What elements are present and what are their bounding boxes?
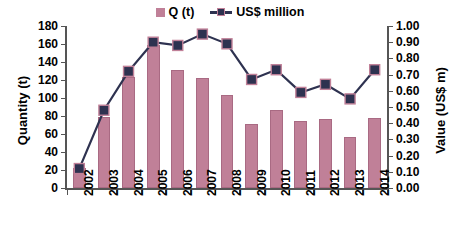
line-marker (124, 66, 134, 76)
x-axis-label: 2005 (156, 169, 170, 196)
y-tick-label-right: 0.20 (396, 149, 419, 163)
legend-marker-square (217, 8, 225, 16)
y-tick-label-right: 0.50 (396, 100, 419, 114)
line-marker (247, 74, 257, 84)
x-axis-label: 2014 (378, 169, 392, 196)
y-tick-label-left: 20 (45, 163, 58, 177)
y-tick-right (387, 26, 393, 27)
y-tick-right (387, 107, 393, 108)
y-tick-right (387, 123, 393, 124)
chart-container: Q (t) US$ million Quantity (t) Value (US… (0, 0, 460, 237)
line-marker (148, 37, 158, 47)
x-axis-label: 2002 (82, 169, 96, 196)
y-tick-label-left: 120 (38, 73, 58, 87)
line-marker (222, 39, 232, 49)
y-tick-label-left: 80 (45, 109, 58, 123)
y-tick-label-left: 180 (38, 19, 58, 33)
legend-entry-value: US$ million (210, 5, 304, 19)
x-axis-label: 2011 (304, 170, 318, 196)
line-marker-icon (210, 7, 232, 17)
x-axis-label: 2010 (279, 169, 293, 196)
line-path (79, 34, 374, 168)
line-marker (99, 105, 109, 115)
y-tick-label-left: 100 (38, 91, 58, 105)
line-marker (296, 87, 306, 97)
y-tick-label-left: 140 (38, 55, 58, 69)
y-tick-label-left: 160 (38, 37, 58, 51)
y-tick-label-right: 0.90 (396, 35, 419, 49)
legend-label-quantity: Q (t) (169, 5, 195, 19)
line-marker (271, 65, 281, 75)
x-axis-label: 2003 (107, 169, 121, 196)
line-marker (370, 65, 380, 75)
x-axis-label: 2007 (205, 169, 219, 196)
y-tick-label-left: 40 (45, 145, 58, 159)
y-tick-label-right: 0.60 (396, 84, 419, 98)
x-axis-label: 2013 (353, 169, 367, 196)
bar-swatch-icon (156, 8, 165, 17)
y-tick-right (387, 156, 393, 157)
y-tick-label-right: 0.30 (396, 132, 419, 146)
y-tick-label-right: 1.00 (396, 19, 419, 33)
legend-label-value: US$ million (236, 5, 304, 19)
line-series (67, 26, 387, 188)
x-axis-label: 2009 (255, 169, 269, 196)
x-axis-label: 2008 (230, 169, 244, 196)
line-marker (320, 79, 330, 89)
line-marker (345, 94, 355, 104)
x-axis-label: 2012 (328, 169, 342, 196)
y-tick-right (387, 139, 393, 140)
y-axis-left-title: Quantity (t) (15, 56, 30, 166)
line-marker (173, 40, 183, 50)
legend-entry-quantity: Q (t) (156, 5, 195, 19)
y-tick-label-right: 0.00 (396, 181, 419, 195)
y-tick-label-right: 0.70 (396, 68, 419, 82)
y-tick-label-left: 60 (45, 127, 58, 141)
line-markers (74, 29, 379, 173)
y-tick-label-right: 0.80 (396, 51, 419, 65)
y-tick-label-right: 0.10 (396, 165, 419, 179)
line-marker (197, 29, 207, 39)
y-tick-right (387, 75, 393, 76)
x-axis-label: 2006 (181, 169, 195, 196)
y-tick-label-left: 0 (51, 181, 58, 195)
y-tick-right (387, 42, 393, 43)
y-tick-right (387, 58, 393, 59)
plot-area: 020406080100120140160180 0.000.100.200.3… (65, 26, 389, 190)
x-axis-label: 2004 (132, 169, 146, 196)
chart-legend: Q (t) US$ million (0, 2, 460, 22)
x-tick (67, 188, 68, 195)
y-axis-right-title: Value (US$ m) (433, 51, 448, 171)
y-tick-label-right: 0.40 (396, 116, 419, 130)
y-tick-right (387, 91, 393, 92)
